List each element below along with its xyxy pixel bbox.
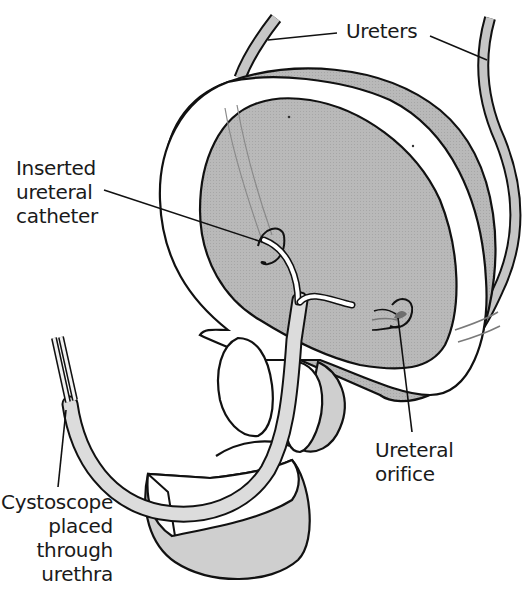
- ureters-label-text: Ureters: [346, 19, 417, 43]
- ureters-leader-left: [268, 33, 337, 40]
- cystoscope-leader: [58, 410, 66, 487]
- ureters-label: Ureters: [346, 19, 417, 43]
- catheter-label-line-1: Inserted: [16, 156, 98, 180]
- cystoscope-label-line-4: urethra: [0, 562, 113, 586]
- orifice-label-line-1: Ureteral: [375, 438, 454, 462]
- ureteral-orifice-label: Ureteral orifice: [375, 438, 454, 486]
- catheter-label-line-3: catheter: [16, 204, 98, 228]
- orifice-label-line-2: orifice: [375, 462, 454, 486]
- inserted-ureteral-catheter-label: Inserted ureteral catheter: [16, 156, 98, 228]
- catheter-external-ends: [54, 337, 75, 402]
- cystoscope-label-line-2: placed: [0, 514, 113, 538]
- left-ureter: [240, 18, 276, 78]
- diagram-figure: Ureters Inserted ureteral catheter Urete…: [0, 0, 528, 597]
- cystoscope-label: Cystoscope placed through urethra: [0, 490, 113, 586]
- catheter-label-line-2: ureteral: [16, 180, 98, 204]
- cystoscope-label-line-3: through: [0, 538, 113, 562]
- cystoscope-label-line-1: Cystoscope: [0, 490, 113, 514]
